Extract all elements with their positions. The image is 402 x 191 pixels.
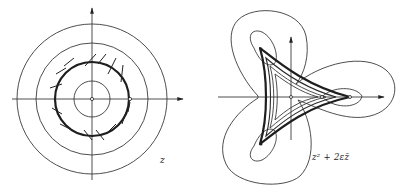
- point-right: [321, 96, 324, 99]
- origin-point: [90, 97, 93, 100]
- label-map-formula: z² + 2εz̄: [312, 152, 349, 162]
- right-panel: [218, 11, 395, 185]
- figure: z z² + 2εz̄: [0, 0, 402, 191]
- cusp-right: [349, 96, 352, 99]
- cusp-upper-left: [260, 48, 263, 51]
- hatch-marks: [50, 54, 130, 140]
- figure-graphics: [0, 0, 402, 191]
- origin-point: [290, 96, 293, 99]
- point-on-circle: [128, 97, 131, 100]
- cusp-lower-left: [260, 143, 263, 146]
- label-z: z: [160, 155, 165, 165]
- left-panel: [12, 8, 183, 180]
